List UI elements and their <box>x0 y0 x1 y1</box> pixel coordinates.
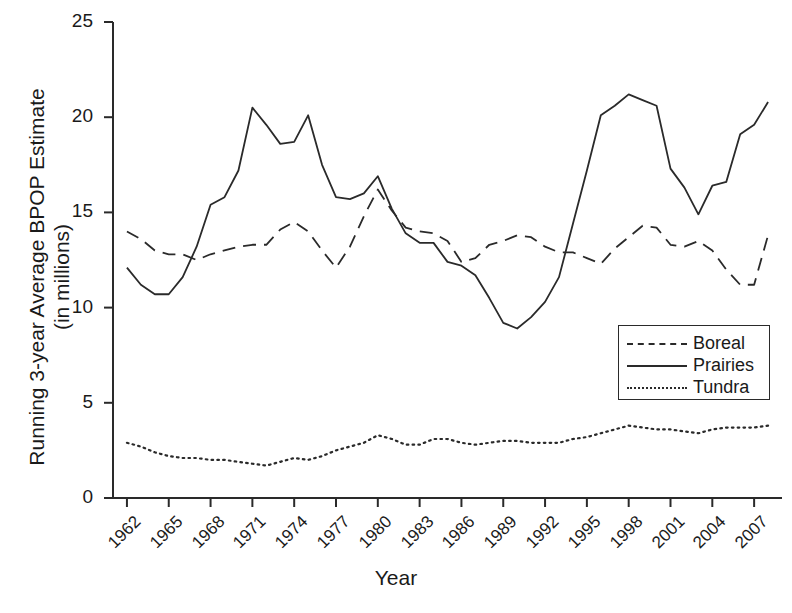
legend: BorealPrairiesTundra <box>618 325 770 400</box>
data-series <box>127 94 768 465</box>
y-tick-marks <box>104 22 113 498</box>
legend-item-tundra: Tundra <box>627 376 767 400</box>
y-tick-label: 0 <box>33 486 93 508</box>
legend-label: Tundra <box>693 375 749 399</box>
series-line-prairies <box>127 94 768 328</box>
y-tick-label: 10 <box>33 296 93 318</box>
legend-label: Prairies <box>693 353 754 377</box>
chart-figure: Running 3-year Average BPOP Estimate (in… <box>0 0 792 613</box>
x-tick-marks <box>127 498 754 507</box>
y-tick-label: 20 <box>33 105 93 127</box>
y-tick-label: 15 <box>33 200 93 222</box>
legend-swatch-dotted <box>627 387 687 389</box>
y-tick-label: 25 <box>33 10 93 32</box>
axes <box>104 22 782 507</box>
x-axis-title: Year <box>0 566 792 590</box>
y-tick-label: 5 <box>33 391 93 413</box>
legend-swatch-solid <box>627 365 687 367</box>
legend-swatch-dashed <box>627 343 687 345</box>
series-line-boreal <box>127 190 768 285</box>
series-line-tundra <box>127 426 768 466</box>
legend-label: Boreal <box>693 331 745 355</box>
